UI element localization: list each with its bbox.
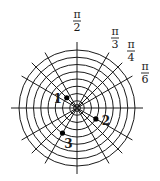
angle-label-pi-over-4: π4 — [127, 38, 135, 64]
angle-label-denominator: 6 — [142, 73, 149, 86]
angle-label-denominator: 4 — [128, 51, 135, 64]
angle-label-pi-over-6: π6 — [141, 60, 149, 86]
point-marker — [64, 95, 69, 100]
polar-grid-canvas: π2π3π4π6 123 — [0, 0, 160, 181]
point-label: 3 — [64, 137, 72, 151]
angle-label-pi-over-2: π2 — [73, 8, 81, 34]
angle-label-numerator: π — [141, 60, 148, 73]
point-2: 2 — [93, 114, 110, 128]
angle-label-pi-over-3: π3 — [111, 25, 119, 51]
coordinate-axes — [11, 42, 143, 174]
angle-label-numerator: π — [73, 8, 80, 21]
polar-grid-diagram: π2π3π4π6 123 — [0, 0, 160, 181]
point-marker — [60, 131, 65, 136]
angle-label-numerator: π — [111, 25, 118, 38]
point-label: 2 — [102, 114, 110, 128]
angle-label-denominator: 3 — [112, 38, 119, 51]
point-label: 1 — [54, 92, 62, 106]
angle-label-denominator: 2 — [74, 21, 81, 34]
point-1: 1 — [54, 92, 70, 106]
point-marker — [93, 116, 98, 121]
angle-label-numerator: π — [127, 38, 134, 51]
